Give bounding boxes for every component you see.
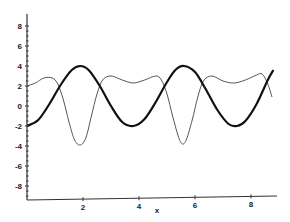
plot-area bbox=[27, 66, 273, 145]
y-tick-label: -2 bbox=[15, 122, 23, 131]
chart: -8-6-4-202468 2468 x bbox=[0, 0, 290, 222]
x-tick-label: 6 bbox=[193, 201, 198, 210]
x-axis-line bbox=[27, 196, 277, 200]
y-tick-label: 2 bbox=[18, 82, 23, 91]
x-axis-label: x bbox=[155, 206, 160, 215]
y-tick-label: 4 bbox=[18, 62, 23, 71]
y-tick-label: -6 bbox=[15, 162, 23, 171]
x-tick-label: 2 bbox=[81, 203, 86, 212]
y-axis: -8-6-4-202468 bbox=[15, 14, 29, 200]
y-tick-label: -8 bbox=[15, 182, 23, 191]
y-tick-label: 6 bbox=[18, 42, 23, 51]
y-tick-label: -4 bbox=[15, 142, 23, 151]
thick-curve-line bbox=[27, 66, 273, 126]
thin-curve-line bbox=[27, 73, 272, 145]
y-tick-label: 8 bbox=[18, 22, 23, 31]
x-axis: 2468 x bbox=[27, 194, 277, 215]
x-tick-label: 8 bbox=[249, 200, 254, 209]
y-tick-label: 0 bbox=[18, 102, 23, 111]
x-tick-label: 4 bbox=[137, 202, 142, 211]
